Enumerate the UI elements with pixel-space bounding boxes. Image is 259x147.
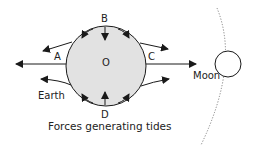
label-a: A (54, 52, 61, 62)
diagram-caption: Forces generating tides (48, 121, 172, 132)
label-o: O (102, 58, 110, 68)
label-c: C (148, 52, 155, 62)
label-earth: Earth (38, 91, 65, 101)
arrow-right-upper (140, 43, 168, 49)
arrow-left-upper (43, 42, 72, 51)
label-moon: Moon (193, 71, 220, 81)
label-b: B (101, 14, 108, 24)
label-d: D (101, 110, 109, 120)
arrow-right-lower (141, 79, 169, 86)
arrow-left-lower (41, 79, 71, 85)
